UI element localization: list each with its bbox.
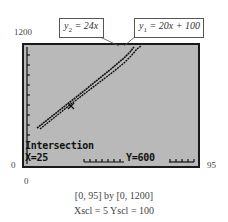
callout-y2-rhs: = 24x: [72, 20, 98, 31]
callout-y2: y2 = 24x: [59, 18, 104, 38]
scale-caption: Xscl = 5 Yscl = 100: [0, 205, 228, 216]
window-caption: [0, 95] by [0, 1200]: [0, 190, 228, 201]
callout-y1-rhs: = 20x + 100: [147, 20, 200, 31]
callout-y1: y1 = 20x + 100: [134, 18, 204, 38]
